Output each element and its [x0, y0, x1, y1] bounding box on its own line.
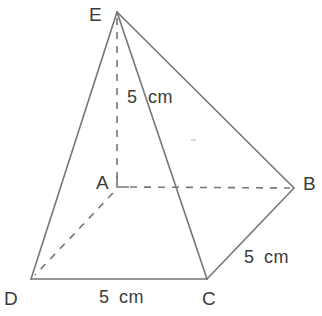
solid-edges [31, 12, 294, 279]
edge-A-B-diagonal [130, 187, 290, 188]
edge-A-D-diagonal [35, 193, 113, 275]
base-edge-measure-unit: cm [119, 288, 144, 306]
vertex-label-E: E [89, 5, 102, 24]
base-edge-measure-value: 5 [99, 288, 110, 306]
pyramid-drawing [0, 0, 322, 316]
vertex-label-B: B [303, 174, 316, 193]
right-angle-marker-at-A [117, 176, 129, 187]
vertex-label-A: A [96, 173, 109, 192]
vertex-label-D: D [4, 289, 18, 308]
vertex-label-C: C [202, 289, 216, 308]
height-measure-unit: cm [148, 88, 173, 106]
slant-edge-measure-value: 5 [244, 248, 255, 266]
faint-stray-mark [191, 139, 196, 141]
edge-E-B [117, 12, 294, 188]
edge-E-C [117, 12, 207, 279]
height-measure-value: 5 [127, 88, 138, 106]
geometry-figure: E A B C D 5 cm 5 cm 5 cm [0, 0, 322, 316]
slant-edge-measure-unit: cm [264, 248, 289, 266]
edge-E-D [31, 12, 117, 279]
